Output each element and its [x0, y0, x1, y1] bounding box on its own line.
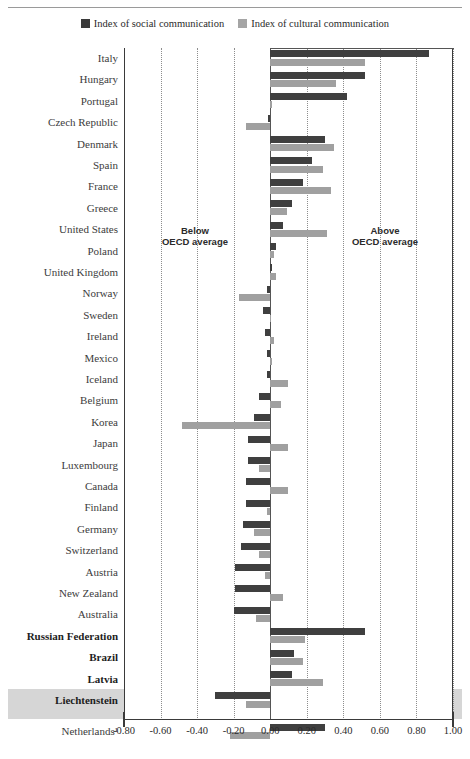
- bar-social: [270, 72, 365, 79]
- bar-row: [124, 604, 453, 625]
- bar-row: [124, 176, 453, 197]
- category-label: Portugal: [0, 91, 118, 112]
- bar-row: [124, 519, 453, 540]
- bar-social: [259, 393, 270, 400]
- category-label: Sweden: [0, 305, 118, 326]
- legend-label-cultural: Index of cultural communication: [251, 18, 389, 29]
- bar-cultural: [270, 444, 288, 451]
- bar-row: [124, 562, 453, 583]
- category-label: Korea: [0, 412, 118, 433]
- bar-social: [270, 222, 283, 229]
- category-label: Mexico: [0, 348, 118, 369]
- bar-row: [124, 155, 453, 176]
- category-label: United States: [0, 219, 118, 240]
- bar-cultural: [270, 230, 327, 237]
- category-label: United Kingdom: [0, 262, 118, 283]
- bar-cultural: [246, 701, 270, 708]
- bar-row: [124, 626, 453, 647]
- category-label: Ireland: [0, 326, 118, 347]
- category-label: Finland: [0, 497, 118, 518]
- legend-label-social: Index of social communication: [94, 18, 224, 29]
- category-label: Brazil: [0, 647, 118, 668]
- bar-social: [267, 371, 271, 378]
- x-axis-line: [124, 719, 454, 720]
- bar-cultural: [270, 101, 272, 108]
- legend-swatch-social-icon: [81, 19, 90, 28]
- bar-cultural: [270, 658, 303, 665]
- bar-cultural: [182, 422, 270, 429]
- bar-cultural: [270, 187, 330, 194]
- chart-legend: Index of social communication Index of c…: [0, 18, 470, 29]
- category-label: Luxembourg: [0, 455, 118, 476]
- bar-row: [124, 48, 453, 69]
- bar-social: [270, 93, 347, 100]
- bar-row: [124, 112, 453, 133]
- bar-cultural: [270, 679, 323, 686]
- bar-row: [124, 262, 453, 283]
- bar-social: [270, 179, 303, 186]
- category-label: Russian Federation: [0, 626, 118, 647]
- bar-row: [124, 283, 453, 304]
- bar-row: [124, 134, 453, 155]
- x-axis-tick-labels: -0.80-0.60-0.40-0.200.000.200.400.600.80…: [0, 725, 470, 745]
- bar-row: [124, 390, 453, 411]
- x-tick-label: 1.00: [433, 725, 470, 736]
- bar-row: [124, 69, 453, 90]
- category-label: Australia: [0, 604, 118, 625]
- bar-row: [124, 455, 453, 476]
- bar-row: [124, 305, 453, 326]
- bar-social: [270, 650, 294, 657]
- x-tick-label: -0.60: [141, 725, 181, 736]
- legend-item-cultural: Index of cultural communication: [238, 18, 389, 29]
- bar-cultural: [270, 166, 323, 173]
- bar-social: [270, 136, 325, 143]
- bar-cultural: [239, 294, 270, 301]
- bar-row: [124, 91, 453, 112]
- x-tick-label: 0.20: [287, 725, 327, 736]
- annotation-below-line2: OECD average: [150, 236, 240, 247]
- bar-cultural: [270, 273, 275, 280]
- top-divider: [8, 7, 462, 8]
- bar-social: [265, 329, 270, 336]
- bar-row: [124, 433, 453, 454]
- category-label: Greece: [0, 198, 118, 219]
- category-label: New Zealand: [0, 583, 118, 604]
- bar-cultural: [270, 315, 271, 322]
- bar-row: [124, 369, 453, 390]
- category-label: Latvia: [0, 669, 118, 690]
- annotation-below-oecd-average: Below OECD average: [150, 225, 240, 247]
- category-label: Norway: [0, 283, 118, 304]
- bar-row: [124, 669, 453, 690]
- bar-row: [124, 690, 453, 711]
- x-tick-label: -0.20: [214, 725, 254, 736]
- bar-cultural: [246, 123, 270, 130]
- bar-social: [267, 350, 271, 357]
- bar-cultural: [270, 380, 288, 387]
- bar-row: [124, 476, 453, 497]
- bar-social: [270, 50, 429, 57]
- bar-cultural: [270, 59, 365, 66]
- plot-area: [124, 48, 453, 720]
- category-label: Denmark: [0, 134, 118, 155]
- bar-cultural: [270, 594, 283, 601]
- category-label: Iceland: [0, 369, 118, 390]
- category-label: Hungary: [0, 69, 118, 90]
- category-label: France: [0, 176, 118, 197]
- bar-cultural: [265, 572, 270, 579]
- category-label: Japan: [0, 433, 118, 454]
- bar-social: [234, 607, 271, 614]
- category-label: Germany: [0, 519, 118, 540]
- gridline-1: [453, 48, 455, 720]
- category-label: Liechtenstein: [0, 690, 118, 711]
- category-label: Spain: [0, 155, 118, 176]
- legend-swatch-cultural-icon: [238, 19, 247, 28]
- bar-row: [124, 198, 453, 219]
- bar-social: [248, 436, 270, 443]
- bar-social: [246, 500, 270, 507]
- x-tick-label: 0.40: [323, 725, 363, 736]
- bar-cultural: [270, 487, 288, 494]
- bar-social: [270, 628, 365, 635]
- bar-social: [263, 307, 270, 314]
- bar-social: [270, 243, 275, 250]
- x-tick-label: -0.80: [104, 725, 144, 736]
